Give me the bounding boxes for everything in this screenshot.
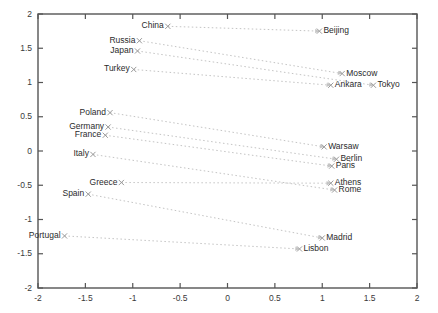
capital-label: Tokyo bbox=[377, 80, 399, 89]
capital-label: Moscow bbox=[346, 69, 377, 78]
country-marker bbox=[135, 48, 140, 53]
connector-lines bbox=[65, 26, 374, 251]
scatter-plot: -2-1.5-1-0.500.511.5221.510.50-0.5-1-1.5… bbox=[0, 0, 438, 313]
x-tick-label: 0.5 bbox=[255, 294, 295, 303]
country-marker bbox=[131, 67, 136, 72]
country-marker bbox=[165, 24, 170, 29]
country-marker bbox=[86, 192, 91, 197]
x-tick-label: 0 bbox=[208, 294, 248, 303]
x-tick-label: -0.5 bbox=[160, 294, 200, 303]
capital-label: Ankara bbox=[335, 80, 362, 89]
country-marker bbox=[90, 152, 95, 157]
country-label: Greece bbox=[0, 178, 117, 187]
capital-label: Madrid bbox=[326, 233, 352, 242]
y-tick-label: -1 bbox=[2, 215, 32, 224]
capital-label: Athens bbox=[335, 178, 361, 187]
country-label: Japan bbox=[13, 46, 133, 55]
country-marker bbox=[107, 110, 112, 115]
data-point-markers bbox=[62, 24, 376, 252]
y-tick-label: 2 bbox=[2, 10, 32, 19]
x-tick-label: -1.5 bbox=[65, 294, 105, 303]
country-label: Turkey bbox=[10, 64, 130, 73]
x-tick-label: -2 bbox=[18, 294, 58, 303]
country-marker bbox=[103, 133, 108, 138]
country-label: Italy bbox=[0, 149, 89, 158]
x-tick-label: -1 bbox=[113, 294, 153, 303]
capital-label: Paris bbox=[336, 161, 355, 170]
capital-label: Beijing bbox=[323, 26, 349, 35]
country-marker bbox=[106, 124, 111, 129]
country-label: China bbox=[44, 21, 164, 30]
capital-label: Lisbon bbox=[304, 244, 329, 253]
capital-label: Warsaw bbox=[328, 142, 358, 151]
country-label: Spain bbox=[0, 189, 84, 198]
y-tick-label: -2 bbox=[2, 284, 32, 293]
country-label: Russia bbox=[15, 36, 135, 45]
country-marker bbox=[137, 38, 142, 43]
y-tick-label: -1.5 bbox=[2, 249, 32, 258]
country-label: France bbox=[0, 130, 101, 139]
country-marker bbox=[119, 180, 124, 185]
y-tick-label: 1 bbox=[2, 78, 32, 87]
x-tick-label: 2 bbox=[397, 294, 437, 303]
x-tick-label: 1.5 bbox=[350, 294, 390, 303]
x-tick-label: 1 bbox=[302, 294, 342, 303]
country-label: Portugal bbox=[0, 231, 61, 240]
country-label: Poland bbox=[0, 108, 106, 117]
country-marker bbox=[62, 233, 67, 238]
